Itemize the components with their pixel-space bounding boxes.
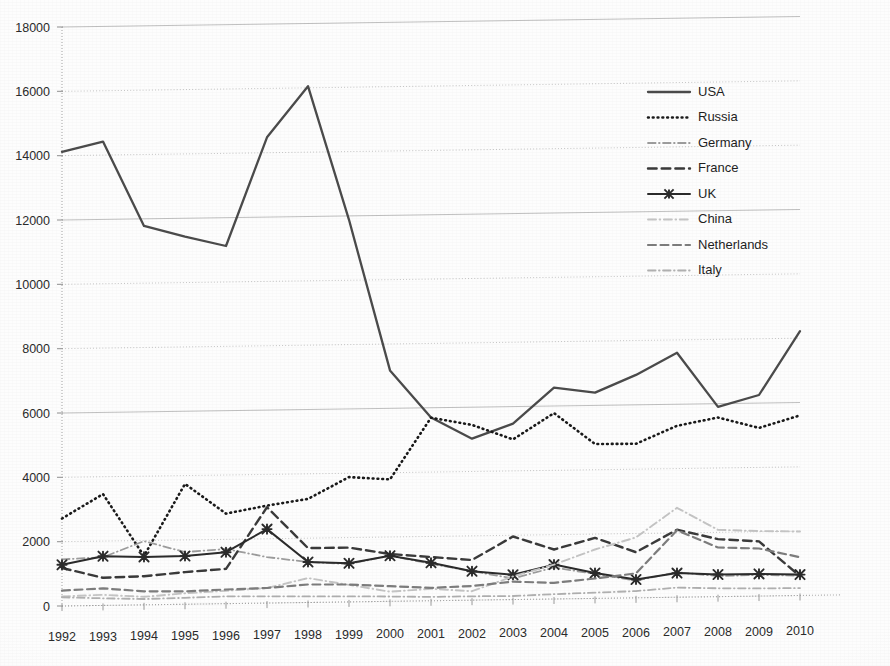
x-tick-label: 1993 (89, 630, 117, 644)
x-tick-label: 1996 (212, 629, 240, 643)
gridline (62, 210, 800, 221)
legend-label-italy: Italy (698, 262, 722, 277)
series-marker-uk (262, 525, 271, 534)
x-tick-label: 2004 (540, 626, 568, 640)
y-tick-label: 14000 (15, 149, 50, 163)
y-tick-label: 2000 (22, 535, 50, 549)
y-tick-label: 18000 (15, 21, 50, 35)
series-marker-uk (672, 569, 681, 578)
series-marker-uk (344, 559, 353, 568)
x-tick-label: 2001 (417, 627, 445, 641)
y-tick-label: 6000 (22, 407, 50, 421)
x-tick-label: 1997 (253, 628, 281, 642)
series-line-usa (62, 86, 800, 439)
series-marker-uk (713, 570, 722, 579)
gridline (62, 81, 800, 92)
chart-canvas: 0200040006000800010000120001400016000180… (0, 0, 890, 666)
gridline (62, 403, 800, 414)
legend-marker-uk (664, 189, 673, 198)
legend-label-usa: USA (698, 84, 725, 99)
x-tick-label: 2008 (704, 625, 732, 639)
gridline (62, 467, 800, 478)
series-marker-uk (385, 551, 394, 560)
legend-label-netherlands: Netherlands (698, 237, 769, 252)
gridline (62, 274, 800, 285)
gridline (62, 338, 800, 349)
y-tick-label: 10000 (15, 278, 50, 292)
series-marker-uk (590, 568, 599, 577)
x-tick-label: 2005 (581, 626, 609, 640)
gridlines (62, 17, 800, 607)
x-tick-label: 2006 (622, 626, 650, 640)
series-marker-uk (139, 552, 148, 561)
series-marker-uk (426, 558, 435, 567)
x-axis (62, 594, 840, 612)
x-tick-label: 2009 (745, 625, 773, 639)
series-marker-uk (795, 570, 804, 579)
series-marker-uk (467, 567, 476, 576)
y-tick-label: 12000 (15, 214, 50, 228)
line-chart: 0200040006000800010000120001400016000180… (0, 0, 890, 666)
x-tick-label: 2007 (663, 625, 691, 639)
y-tick-label: 0 (43, 600, 50, 614)
chart-legend: USARussiaGermanyFranceUKChinaNetherlands… (648, 84, 769, 278)
x-tick-label: 1995 (171, 629, 199, 643)
gridline (62, 145, 800, 156)
x-tick-label: 2010 (786, 624, 814, 638)
series-marker-uk (57, 560, 66, 569)
series-marker-uk (754, 569, 763, 578)
series-marker-uk (631, 575, 640, 584)
x-tick-label: 1999 (335, 628, 363, 642)
series-marker-uk (180, 551, 189, 560)
series-marker-uk (98, 552, 107, 561)
x-tick-label: 2003 (499, 626, 527, 640)
x-tick-label: 1992 (48, 630, 76, 644)
legend-label-russia: Russia (698, 109, 739, 124)
gridline (62, 17, 800, 28)
legend-label-uk: UK (698, 186, 716, 201)
legend-label-france: France (698, 160, 738, 175)
y-tick-label: 16000 (15, 85, 50, 99)
y-tick-label: 8000 (22, 342, 50, 356)
legend-label-germany: Germany (698, 135, 752, 150)
y-tick-labels: 0200040006000800010000120001400016000180… (15, 21, 50, 614)
series-lines (57, 86, 804, 599)
y-tick-label: 4000 (22, 471, 50, 485)
x-tick-label: 1998 (294, 628, 322, 642)
series-marker-uk (221, 548, 230, 557)
x-tick-label: 2000 (376, 627, 404, 641)
x-tick-labels: 1992199319941995199619971998199920002001… (48, 624, 814, 644)
x-tick-label: 2002 (458, 627, 486, 641)
x-tick-label: 1994 (130, 629, 158, 643)
series-line-china (62, 508, 800, 597)
x-axis-line (62, 595, 840, 606)
y-axis (57, 27, 63, 608)
series-marker-uk (303, 557, 312, 566)
legend-label-china: China (698, 211, 733, 226)
